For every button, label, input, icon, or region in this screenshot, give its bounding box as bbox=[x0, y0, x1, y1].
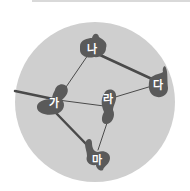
node-label: 마 bbox=[92, 153, 103, 167]
node-label: 라 bbox=[103, 92, 114, 106]
node-label: 나 bbox=[87, 42, 97, 56]
network-diagram: 나 다 가 라 마 bbox=[0, 0, 190, 191]
node-label: 다 bbox=[153, 78, 164, 92]
node-label: 가 bbox=[49, 96, 59, 110]
